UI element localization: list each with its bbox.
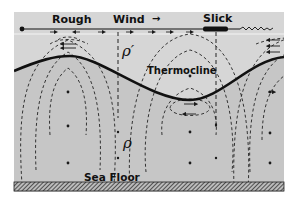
diagram-canvas <box>0 0 297 202</box>
internal-wave-diagram: Rough Wind → Slick ρ′ Thermocline ρ Sea … <box>0 0 297 202</box>
label-sea-floor: Sea Floor <box>84 172 140 183</box>
label-wind: Wind <box>113 14 145 25</box>
label-rho-upper: ρ′ <box>122 44 134 59</box>
slick-band <box>203 27 228 32</box>
label-rho-lower: ρ <box>123 136 132 151</box>
label-rough: Rough <box>52 14 92 25</box>
sea-floor-hatch <box>14 182 284 191</box>
wind-arrow-icon: → <box>152 14 160 24</box>
label-slick: Slick <box>203 13 232 24</box>
surface-start-marker <box>20 27 25 32</box>
label-thermocline: Thermocline <box>147 66 217 76</box>
